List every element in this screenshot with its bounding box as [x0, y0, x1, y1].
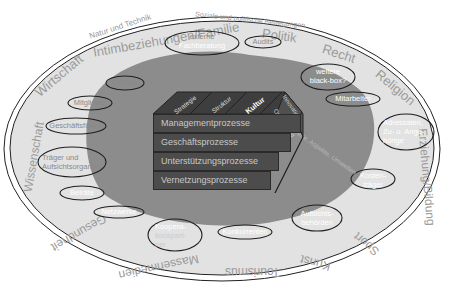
organization-environment-diagram: Natur und Technik Soziale und politische…: [0, 0, 450, 302]
box-row-managementprozesse: Managementprozesse: [153, 114, 301, 133]
box-row-vernetzungsprozesse: Vernetzungsprozesse: [153, 171, 271, 190]
box-row-geschaeftsprozesse: Geschäftsprozesse: [153, 133, 291, 152]
box-row-unterstuetzungsprozesse: Unterstützungsprozesse: [153, 152, 279, 171]
